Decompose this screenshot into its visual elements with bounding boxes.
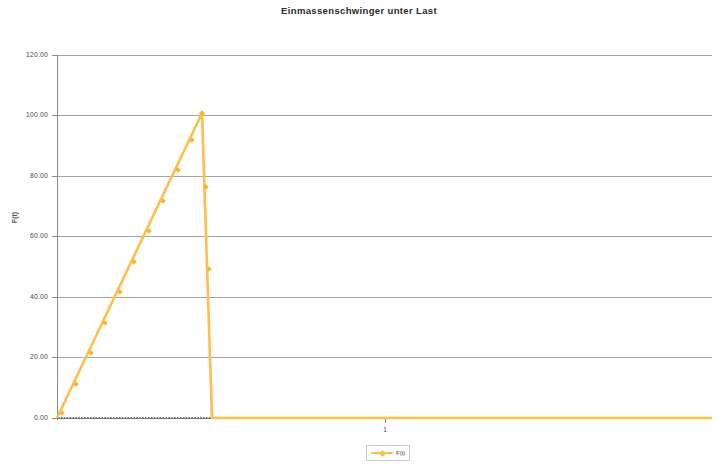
y-axis-ticks	[52, 55, 57, 418]
plot-area	[0, 0, 718, 464]
y-tick-label: 120.00	[4, 51, 48, 58]
chart-legend: F(t)	[366, 445, 410, 461]
y-tick-label: 80.00	[4, 172, 48, 179]
y-tick-label: 20.00	[4, 353, 48, 360]
series-line-ft	[57, 113, 712, 418]
axis-lines	[57, 55, 712, 420]
y-tick-label: 60.00	[4, 232, 48, 239]
legend-label-ft: F(t)	[396, 450, 405, 456]
x-tick-label: 1	[375, 426, 395, 433]
series-markers	[59, 110, 212, 416]
legend-line-icon	[371, 449, 393, 458]
y-tick-label: 100.00	[4, 111, 48, 118]
y-tick-label: 0.00	[4, 414, 48, 421]
gridlines-horizontal	[57, 55, 712, 357]
y-tick-label: 40.00	[4, 293, 48, 300]
chart-container: Einmassenschwinger unter Last F(t)	[0, 0, 718, 464]
